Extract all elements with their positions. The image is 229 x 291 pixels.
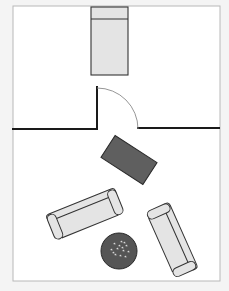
round-rug-icon [101, 233, 137, 269]
floor-plan [0, 0, 229, 291]
bed-frame [91, 7, 128, 75]
bed-icon [91, 7, 128, 75]
rug-circle [101, 233, 137, 269]
